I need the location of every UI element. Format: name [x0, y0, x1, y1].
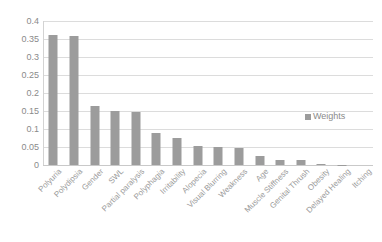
y-axis-tick-label: 0.05 — [0, 143, 39, 152]
legend-label: Weights — [313, 112, 345, 121]
x-axis-tick-label: Gender — [80, 167, 105, 192]
bar-slot — [187, 21, 208, 165]
y-axis-tick-label: 0.35 — [0, 35, 39, 44]
y-axis-tick-label: 0 — [0, 161, 39, 170]
bar-slot — [43, 21, 64, 165]
bar-slot — [270, 21, 291, 165]
bar — [131, 112, 140, 165]
bar-series-weights — [43, 21, 373, 165]
bar-slot — [291, 21, 312, 165]
bar — [214, 147, 223, 165]
bar — [296, 160, 305, 165]
y-axis-tick-labels: 00.050.10.150.20.250.30.350.4 — [0, 21, 39, 165]
y-axis-tick-label: 0.1 — [0, 125, 39, 134]
bar — [317, 164, 326, 165]
y-axis-tick-label: 0.4 — [0, 17, 39, 26]
bar — [111, 111, 120, 165]
bar — [193, 146, 202, 165]
y-axis-tick-label: 0.3 — [0, 53, 39, 62]
y-axis-tick-label: 0.2 — [0, 89, 39, 98]
bar-slot — [146, 21, 167, 165]
x-axis-tick-label: Age — [253, 167, 269, 183]
bar-slot — [249, 21, 270, 165]
bar-slot — [84, 21, 105, 165]
bar-slot — [64, 21, 85, 165]
y-axis-tick-label: 0.25 — [0, 71, 39, 80]
bar — [276, 160, 285, 165]
bar — [90, 106, 99, 165]
x-axis-category-labels: PolyuriaPolydipsiaGenderSWLPartial paral… — [43, 167, 373, 242]
bar — [173, 138, 182, 165]
bar-slot — [105, 21, 126, 165]
legend-swatch-icon — [305, 114, 311, 120]
y-axis-tick-label: 0.15 — [0, 107, 39, 116]
bar-slot — [332, 21, 353, 165]
bar-slot — [208, 21, 229, 165]
bar — [152, 133, 161, 165]
bar-slot — [311, 21, 332, 165]
bar — [255, 156, 264, 165]
bar — [234, 148, 243, 165]
bar-chart: 00.050.10.150.20.250.30.350.4 PolyuriaPo… — [0, 0, 382, 242]
bar-slot — [352, 21, 373, 165]
bar — [49, 35, 58, 165]
bar — [69, 36, 78, 165]
gridline — [43, 165, 373, 166]
x-axis-tick-label: Itching — [350, 167, 373, 190]
bar-slot — [126, 21, 147, 165]
bar-slot — [167, 21, 188, 165]
chart-legend: Weights — [305, 112, 345, 121]
bar-slot — [229, 21, 250, 165]
